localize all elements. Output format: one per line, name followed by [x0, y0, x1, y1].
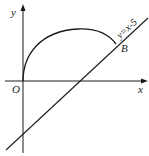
x-axis-label: x [137, 83, 143, 95]
y-axis-label: y [10, 6, 16, 18]
y-axis-arrow-icon [21, 4, 26, 11]
line-y-equals-x-minus-5 [6, 18, 148, 150]
point-b-label: B [121, 42, 128, 54]
line-equation-label: y=x-5 [113, 16, 139, 41]
origin-label: O [12, 83, 20, 95]
coordinate-diagram: y x O B y=x-5 [0, 0, 149, 156]
arc-curve [23, 29, 116, 81]
